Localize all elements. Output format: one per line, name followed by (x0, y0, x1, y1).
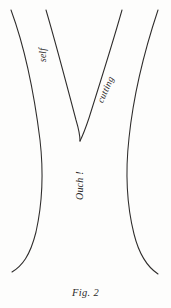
inner-left-stroke (46, 10, 80, 141)
figure-page: self cutting Ouch ! Fig. 2 (0, 0, 171, 308)
outer-right-stroke (127, 10, 158, 274)
label-self: self (39, 48, 49, 62)
inner-right-stroke (80, 10, 122, 141)
figure-caption: Fig. 2 (0, 287, 171, 298)
label-ouch: Ouch ! (75, 171, 85, 200)
branching-trunk-diagram (0, 0, 171, 308)
